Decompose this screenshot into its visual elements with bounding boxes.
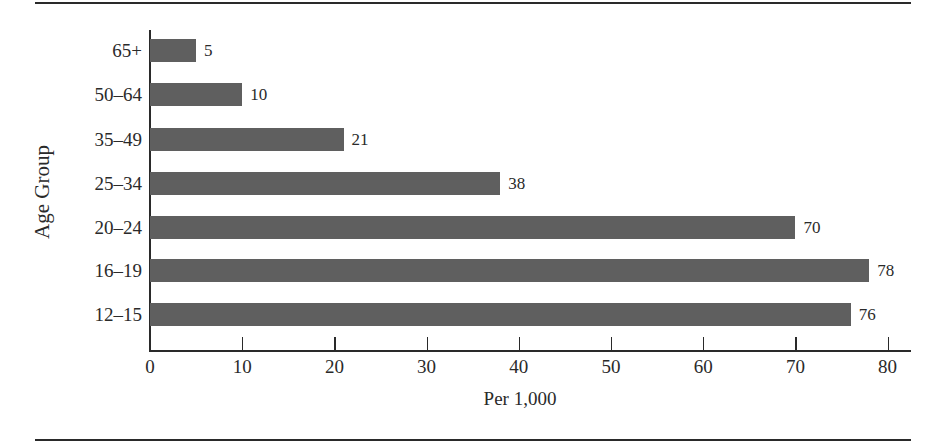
- x-axis-title: Per 1,000: [420, 388, 620, 410]
- x-tick: [334, 337, 335, 351]
- bar-value-label: 76: [859, 303, 876, 326]
- x-tick-label: 50: [591, 356, 631, 378]
- x-tick: [703, 337, 704, 351]
- x-tick-label: 80: [868, 356, 908, 378]
- bar: [150, 128, 344, 151]
- category-label: 50–64: [22, 83, 142, 106]
- bar: [150, 39, 196, 62]
- x-tick-label: 30: [407, 356, 447, 378]
- bar-value-label: 78: [877, 259, 894, 282]
- x-tick: [519, 337, 520, 351]
- x-tick-label: 10: [222, 356, 262, 378]
- x-tick-label: 0: [130, 356, 170, 378]
- x-tick: [242, 337, 243, 351]
- bottom-rule: [35, 439, 911, 441]
- x-tick: [427, 337, 428, 351]
- bar: [150, 303, 851, 326]
- bar: [150, 83, 242, 106]
- x-tick-label: 40: [499, 356, 539, 378]
- category-label: 12–15: [22, 303, 142, 326]
- bar-value-label: 38: [508, 172, 525, 195]
- bar-value-label: 70: [803, 216, 820, 239]
- category-label: 25–34: [22, 172, 142, 195]
- x-tick-label: 20: [314, 356, 354, 378]
- top-rule: [35, 2, 911, 4]
- x-tick: [795, 337, 796, 351]
- bar-value-label: 21: [352, 128, 369, 151]
- x-tick-label: 70: [775, 356, 815, 378]
- bar: [150, 172, 500, 195]
- bar-value-label: 5: [204, 39, 213, 62]
- x-tick-label: 60: [683, 356, 723, 378]
- x-tick: [611, 337, 612, 351]
- bar: [150, 216, 795, 239]
- bar: [150, 259, 869, 282]
- x-tick: [888, 337, 889, 351]
- category-label: 35–49: [22, 128, 142, 151]
- category-label: 16–19: [22, 259, 142, 282]
- x-axis-line: [149, 350, 911, 352]
- category-label: 20–24: [22, 216, 142, 239]
- category-label: 65+: [22, 39, 142, 62]
- bar-value-label: 10: [250, 83, 267, 106]
